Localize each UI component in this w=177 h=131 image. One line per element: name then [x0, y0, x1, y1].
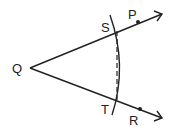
label-s: S — [101, 20, 110, 35]
label-r: R — [129, 113, 138, 128]
ray-qr — [30, 68, 162, 118]
label-p: P — [128, 7, 137, 22]
label-q: Q — [12, 61, 22, 76]
point-r — [138, 107, 142, 111]
angle-diagram: Q S P T R — [0, 0, 177, 131]
label-t: T — [101, 102, 109, 117]
ray-qp — [30, 14, 162, 68]
